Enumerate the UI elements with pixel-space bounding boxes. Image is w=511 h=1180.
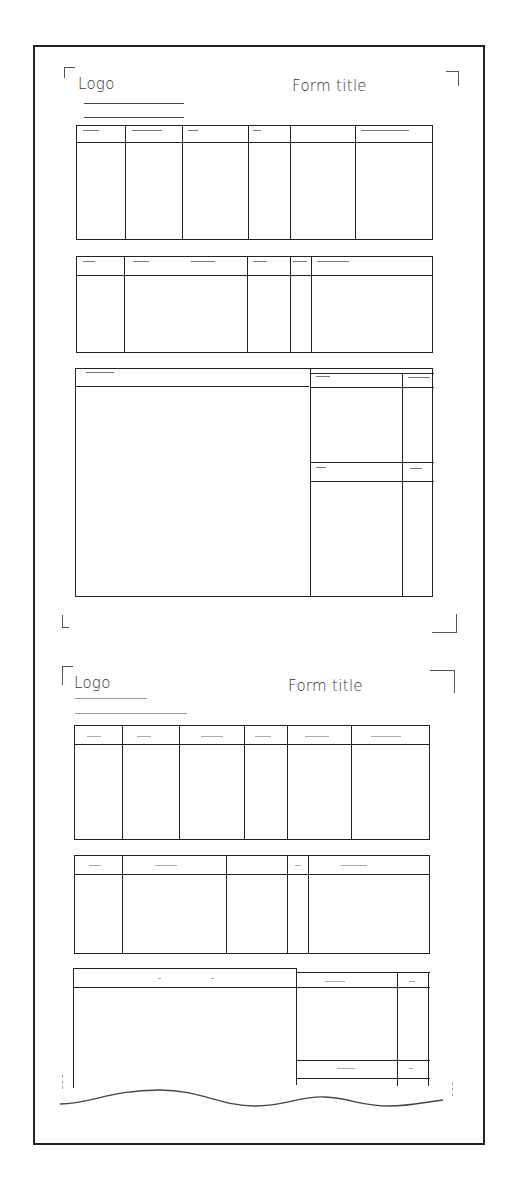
header-label-placeholder (188, 130, 198, 131)
column-divider (296, 968, 297, 1085)
address-line-2 (75, 713, 187, 714)
header-label-placeholder (409, 981, 415, 982)
header-label-placeholder (305, 736, 329, 737)
column-divider (397, 972, 398, 1086)
header-label-placeholder (155, 865, 177, 866)
header-label-placeholder (317, 261, 349, 262)
crop-mark-bottom-right (452, 1082, 453, 1096)
right-header-top (296, 972, 430, 973)
header-label-placeholder (295, 865, 301, 866)
header-label-placeholder (201, 736, 223, 737)
break-line-icon (60, 1088, 460, 1110)
column-divider (125, 126, 126, 239)
column-divider (182, 126, 183, 239)
sub-header-label-placeholder (410, 468, 422, 469)
header-label-placeholder (191, 261, 215, 262)
crop-mark-top-left (64, 67, 75, 78)
header-label-placeholder (408, 377, 430, 378)
header-label-placeholder (83, 261, 95, 262)
header-divider (75, 874, 429, 875)
sub-header-divider (296, 1078, 430, 1079)
sub-header-top (296, 1060, 430, 1061)
column-divider (308, 856, 309, 953)
column-divider (122, 856, 123, 953)
right-edge (428, 972, 429, 1086)
sub-header-label-placeholder (316, 467, 326, 468)
header-label-placeholder (158, 978, 161, 979)
column-divider (310, 369, 311, 596)
header-label-placeholder (87, 736, 101, 737)
column-divider (311, 257, 312, 352)
column-divider (248, 126, 249, 239)
form-title: Form title (292, 77, 367, 95)
column-divider (226, 856, 227, 953)
logo-label: Logo (74, 674, 111, 692)
header-divider (73, 987, 430, 988)
column-divider (124, 257, 125, 352)
table-top (73, 968, 296, 969)
form-1-table-2 (76, 256, 433, 353)
header-label-placeholder (211, 978, 214, 979)
column-divider (402, 373, 403, 596)
sub-header-divider (310, 481, 434, 482)
header-label-placeholder (253, 261, 267, 262)
header-label-placeholder (255, 736, 271, 737)
sub-header-label-placeholder (409, 1068, 413, 1069)
form-1-table-1 (76, 125, 433, 240)
form-2-table-3 (73, 968, 430, 1086)
column-divider (287, 856, 288, 953)
header-label-placeholder (325, 981, 345, 982)
sub-header-label-placeholder (337, 1068, 355, 1069)
header-divider (76, 386, 309, 387)
crop-mark-top-right (446, 71, 459, 86)
header-divider (75, 744, 429, 745)
right-header-top (310, 373, 434, 374)
crop-mark-bottom-right (432, 614, 457, 633)
address-line-2 (84, 117, 184, 118)
column-divider (179, 726, 180, 839)
crop-mark-bottom-left (62, 615, 69, 628)
header-label-placeholder (316, 376, 330, 377)
right-header-divider (310, 387, 434, 388)
form-title: Form title (288, 677, 363, 695)
header-label-placeholder (137, 736, 151, 737)
header-divider (77, 142, 432, 143)
logo-label: Logo (78, 75, 115, 93)
column-divider (244, 726, 245, 839)
address-line-1 (75, 698, 147, 699)
column-divider (287, 726, 288, 839)
header-label-placeholder (293, 261, 307, 262)
crop-mark-bottom-left (62, 1075, 63, 1089)
header-label-placeholder (371, 736, 401, 737)
header-label-placeholder (253, 130, 261, 131)
form-1-table-3 (75, 368, 433, 597)
crop-mark-top-left (62, 666, 73, 685)
left-edge (73, 968, 74, 1088)
column-divider (247, 257, 248, 352)
header-label-placeholder (132, 130, 162, 131)
header-label-placeholder (83, 130, 99, 131)
column-divider (290, 126, 291, 239)
header-label-placeholder (361, 130, 409, 131)
form-2-table-1 (74, 725, 430, 840)
address-line-1 (84, 103, 184, 104)
header-label-placeholder (133, 261, 149, 262)
header-label-placeholder (341, 865, 367, 866)
header-divider (77, 275, 432, 276)
column-divider (290, 257, 291, 352)
column-divider (355, 126, 356, 239)
column-divider (351, 726, 352, 839)
header-label-placeholder (86, 372, 114, 373)
header-label-placeholder (89, 865, 101, 866)
sub-header-top (310, 462, 434, 463)
column-divider (122, 726, 123, 839)
crop-mark-top-right (430, 670, 455, 693)
form-2-table-2 (74, 855, 430, 954)
